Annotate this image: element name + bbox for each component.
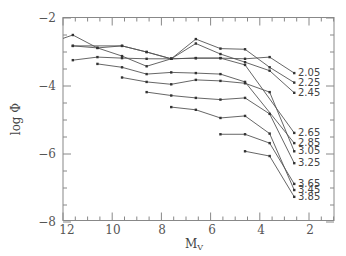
data-point-marker (72, 34, 74, 36)
data-point-marker (268, 66, 270, 68)
data-point-marker (170, 83, 172, 85)
data-point-marker (268, 70, 270, 72)
data-point-marker (293, 132, 295, 134)
data-point-marker (219, 80, 221, 82)
axis-ticks (63, 18, 334, 223)
data-point-marker (293, 92, 295, 94)
x-tick-label: 10 (105, 223, 120, 237)
series-label-3.05: 3.05 (298, 145, 320, 156)
data-point-marker (195, 79, 197, 81)
x-tick-label: 6 (208, 223, 216, 237)
data-point-marker (145, 65, 147, 67)
x-tick-label: 8 (158, 223, 166, 237)
data-point-marker (293, 196, 295, 198)
data-point-marker (293, 162, 295, 164)
data-point-marker (121, 45, 123, 47)
data-point-marker (195, 57, 197, 59)
data-point-marker (219, 47, 221, 49)
data-point-marker (244, 58, 246, 60)
data-point-marker (268, 56, 270, 58)
data-point-marker (293, 72, 295, 74)
data-point-marker (293, 189, 295, 191)
data-point-marker (293, 142, 295, 144)
data-point-marker (145, 58, 147, 60)
data-point-marker (219, 98, 221, 100)
x-tick-label: 2 (306, 223, 314, 237)
data-point-marker (268, 155, 270, 157)
data-point-marker (268, 113, 270, 115)
data-point-marker (268, 132, 270, 134)
y-tick-label: −4 (38, 79, 56, 93)
data-point-marker (293, 150, 295, 152)
y-tick-label: −2 (38, 11, 56, 25)
data-point-marker (244, 115, 246, 117)
series-label-3.25: 3.25 (298, 157, 320, 168)
data-point-marker (145, 73, 147, 75)
data-point-marker (72, 45, 74, 47)
data-point-marker (244, 97, 246, 99)
data-point-marker (244, 133, 246, 135)
x-tick-label: 12 (59, 223, 74, 237)
data-point-marker (244, 61, 246, 63)
data-point-marker (170, 94, 172, 96)
data-point-marker (293, 81, 295, 83)
data-point-marker (195, 42, 197, 44)
series-label-2.45: 2.45 (298, 87, 320, 98)
data-point-marker (293, 183, 295, 185)
data-point-marker (268, 91, 270, 93)
y-tick-label: −8 (38, 215, 56, 229)
series-line-2.05 (73, 46, 294, 73)
luminosity-function-chart: −2 −4 −6 −8 12 10 8 6 4 2 MV log Φ 2.05 … (0, 0, 346, 256)
data-point-marker (244, 150, 246, 152)
series-line-3.05 (122, 78, 294, 152)
data-point-marker (244, 64, 246, 66)
data-point-marker (219, 117, 221, 119)
data-point-marker (96, 63, 98, 65)
data-point-marker (145, 51, 147, 53)
series-label-3.85: 3.85 (298, 191, 320, 202)
data-point-marker (145, 91, 147, 93)
data-point-marker (244, 48, 246, 50)
data-point-marker (219, 133, 221, 135)
data-point-marker (195, 97, 197, 99)
data-series (63, 34, 295, 198)
x-tick-label: 4 (257, 223, 265, 237)
data-point-marker (96, 47, 98, 49)
data-point-marker (244, 82, 246, 84)
data-point-marker (268, 142, 270, 144)
data-point-marker (121, 76, 123, 78)
data-point-marker (145, 81, 147, 83)
data-point-marker (170, 71, 172, 73)
data-point-marker (195, 38, 197, 40)
series-line-2.85 (97, 64, 294, 143)
data-point-marker (72, 59, 74, 61)
y-axis-title: log Φ (9, 103, 23, 136)
data-point-marker (170, 58, 172, 60)
x-axis-title: MV (185, 237, 203, 252)
data-point-marker (195, 109, 197, 111)
data-point-marker (96, 56, 98, 58)
data-point-marker (121, 57, 123, 59)
data-point-marker (219, 57, 221, 59)
series-line-2.65 (73, 57, 294, 133)
y-tick-label: −6 (38, 147, 56, 161)
data-point-marker (195, 72, 197, 74)
data-point-marker (121, 66, 123, 68)
data-point-marker (219, 53, 221, 55)
data-point-marker (219, 73, 221, 75)
data-point-marker (170, 106, 172, 108)
